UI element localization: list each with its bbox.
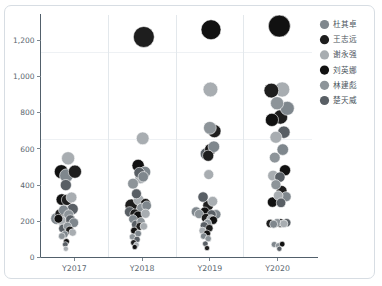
data-point[interactable] xyxy=(63,246,68,251)
data-point[interactable] xyxy=(204,170,214,180)
data-point[interactable] xyxy=(270,220,278,228)
data-point[interactable] xyxy=(128,178,139,189)
data-point[interactable] xyxy=(198,192,208,202)
data-point[interactable] xyxy=(54,214,63,223)
data-point[interactable] xyxy=(203,121,216,134)
legend-swatch[interactable] xyxy=(320,81,329,90)
y-tick-label: 600 xyxy=(20,145,35,154)
x-tick-label: Y2017 xyxy=(61,264,87,273)
data-point[interactable] xyxy=(203,82,218,97)
legend-swatch[interactable] xyxy=(320,50,329,59)
data-point[interactable] xyxy=(201,20,221,40)
panel-separators xyxy=(108,15,244,258)
data-point[interactable] xyxy=(58,233,65,240)
y-axis: 02004006008001,0001,200 xyxy=(13,14,40,263)
data-point[interactable] xyxy=(265,113,278,126)
data-point[interactable] xyxy=(268,15,290,37)
data-point[interactable] xyxy=(133,26,154,47)
data-point[interactable] xyxy=(131,189,141,199)
data-point[interactable] xyxy=(208,196,218,206)
data-point[interactable] xyxy=(60,179,71,190)
data-point[interactable] xyxy=(141,209,150,218)
y-tick-label: 200 xyxy=(20,217,35,226)
data-point[interactable] xyxy=(204,245,209,250)
data-point[interactable] xyxy=(280,220,288,228)
x-tick-label: Y2018 xyxy=(129,264,155,273)
y-tick-label: 0 xyxy=(30,253,35,262)
data-point[interactable] xyxy=(277,246,282,251)
y-tick-label: 1,200 xyxy=(13,36,35,45)
chart-screenshot: 02004006008001,0001,200 Y2017Y2018Y2019Y… xyxy=(0,0,382,286)
data-point[interactable] xyxy=(62,152,75,165)
x-axis: Y2017Y2018Y2019Y2020 xyxy=(41,258,318,273)
legend-label[interactable]: 楚天威 xyxy=(333,95,357,105)
legend-label[interactable]: 林建彪 xyxy=(333,80,357,90)
y-tick-label: 1,000 xyxy=(13,72,35,81)
data-point[interactable] xyxy=(69,229,77,237)
legend-swatch[interactable] xyxy=(320,35,329,44)
legend-label[interactable]: 刘英娜 xyxy=(333,65,357,75)
data-point[interactable] xyxy=(203,150,214,161)
data-point[interactable] xyxy=(270,131,282,143)
data-point[interactable] xyxy=(276,198,286,208)
x-tick-label: Y2019 xyxy=(197,264,223,273)
legend-label[interactable]: 谢永强 xyxy=(333,49,357,59)
data-point[interactable] xyxy=(140,223,148,231)
y-tick-label: 400 xyxy=(20,181,35,190)
data-point[interactable] xyxy=(271,180,281,190)
legend-label[interactable]: 王志远 xyxy=(333,34,357,44)
data-point[interactable] xyxy=(269,152,280,163)
data-point[interactable] xyxy=(270,97,283,110)
legend-swatch[interactable] xyxy=(320,96,329,105)
legend-swatch[interactable] xyxy=(320,66,329,75)
scatter-chart: 02004006008001,0001,200 Y2017Y2018Y2019Y… xyxy=(0,0,382,286)
chart-canvas: 02004006008001,0001,200 Y2017Y2018Y2019Y… xyxy=(0,0,382,286)
data-point[interactable] xyxy=(132,244,137,249)
data-point[interactable] xyxy=(138,172,148,182)
data-points xyxy=(51,15,295,251)
data-point[interactable] xyxy=(264,83,279,98)
legend-swatch[interactable] xyxy=(320,20,329,29)
x-tick-label: Y2020 xyxy=(264,264,290,273)
chart-legend[interactable]: 杜其卓王志远谢永强刘英娜林建彪楚天威 xyxy=(320,19,357,105)
legend-label[interactable]: 杜其卓 xyxy=(333,19,357,29)
y-tick-label: 800 xyxy=(20,108,35,117)
data-point[interactable] xyxy=(66,192,77,203)
data-point[interactable] xyxy=(136,132,149,145)
data-point[interactable] xyxy=(68,165,81,178)
